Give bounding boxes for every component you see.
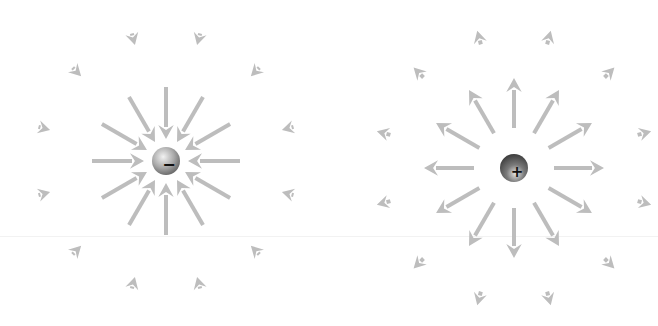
field-line-shaft bbox=[38, 195, 40, 196]
arrowhead-icon bbox=[158, 183, 173, 197]
arrowhead-icon bbox=[601, 68, 614, 81]
field-line-shaft bbox=[195, 178, 230, 198]
arrowhead-icon bbox=[130, 153, 144, 168]
field-line-shaft bbox=[549, 129, 582, 148]
field-line-shaft bbox=[195, 124, 230, 144]
arrowhead-icon bbox=[68, 63, 81, 76]
arrowhead-icon bbox=[601, 255, 614, 268]
field-line-shaft bbox=[129, 97, 149, 132]
field-line-shaft bbox=[38, 127, 40, 128]
field-line-shaft bbox=[638, 134, 642, 135]
field-line-shaft bbox=[200, 287, 201, 289]
positive-charge: + bbox=[500, 154, 528, 182]
field-line-shaft bbox=[480, 40, 481, 44]
arrowhead-icon bbox=[68, 246, 81, 259]
field-line-shaft bbox=[258, 68, 259, 69]
field-line-shaft bbox=[547, 40, 548, 44]
field-line-shaft bbox=[446, 129, 479, 148]
field-line-shaft bbox=[547, 292, 548, 296]
field-line-shaft bbox=[446, 188, 479, 207]
field-line-shaft bbox=[292, 127, 294, 128]
arrowhead-icon bbox=[590, 160, 604, 175]
field-diagram: − + bbox=[0, 0, 658, 326]
field-line-shaft bbox=[73, 253, 74, 254]
arrowhead-icon bbox=[251, 246, 264, 259]
plus-sign-icon: + bbox=[511, 163, 524, 181]
field-line-shaft bbox=[386, 134, 390, 135]
arrowhead-icon bbox=[158, 125, 173, 139]
field-line-shaft bbox=[73, 68, 74, 69]
negative-charge: − bbox=[152, 147, 180, 175]
arrowhead-icon bbox=[506, 244, 521, 258]
field-line-shaft bbox=[183, 190, 203, 225]
arrowhead-icon bbox=[506, 78, 521, 92]
field-line-shaft bbox=[102, 178, 137, 198]
field-line-shaft bbox=[475, 100, 494, 133]
field-line-shaft bbox=[605, 75, 608, 78]
field-line-shaft bbox=[386, 201, 390, 202]
field-line-shaft bbox=[534, 203, 553, 236]
arrowhead-icon bbox=[414, 68, 427, 81]
field-line-shaft bbox=[534, 100, 553, 133]
field-line-shaft bbox=[605, 259, 608, 262]
arrowhead-icon bbox=[424, 160, 438, 175]
field-line-shaft bbox=[102, 124, 137, 144]
arrowhead-icon bbox=[188, 153, 202, 168]
field-line-shaft bbox=[292, 195, 294, 196]
field-line-shaft bbox=[421, 259, 424, 262]
field-line-shaft bbox=[132, 287, 133, 289]
minus-sign-icon: − bbox=[162, 155, 175, 174]
field-line-shaft bbox=[258, 253, 259, 254]
field-line-shaft bbox=[129, 190, 149, 225]
arrowhead-icon bbox=[414, 255, 427, 268]
field-line-shaft bbox=[475, 203, 494, 236]
field-line-shaft bbox=[132, 33, 133, 35]
field-line-shaft bbox=[480, 292, 481, 296]
field-line-shaft bbox=[549, 188, 582, 207]
field-line-shaft bbox=[183, 97, 203, 132]
field-line-shaft bbox=[200, 33, 201, 35]
field-line-shaft bbox=[638, 201, 642, 202]
arrowhead-icon bbox=[251, 63, 264, 76]
field-line-shaft bbox=[421, 75, 424, 78]
